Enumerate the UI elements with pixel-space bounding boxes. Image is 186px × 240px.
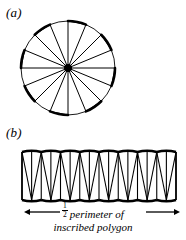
sector-side: [138, 152, 148, 200]
one-half-fraction: 1 2: [62, 202, 68, 219]
sector-side: [70, 152, 80, 200]
polygon-chord: [25, 86, 35, 101]
sector-side: [166, 152, 176, 200]
circle-arc-thin: [50, 21, 68, 25]
fraction-numerator: 1: [62, 202, 68, 210]
circle-arc-thin: [21, 68, 25, 86]
figure-root: (a) (b) 1 2 perimeter of inscribed polyg…: [0, 0, 186, 240]
sector-side: [22, 152, 32, 200]
circle-arc-thin: [86, 25, 101, 35]
sector-spoke: [68, 68, 101, 101]
sector-side: [32, 152, 42, 200]
circle-arc-thin: [25, 35, 35, 50]
caption-line-1: 1 2 perimeter of: [0, 203, 186, 221]
sector-side: [99, 152, 109, 200]
polygon-chord: [86, 101, 101, 111]
sector-spoke: [68, 35, 101, 68]
fraction-denominator: 2: [62, 210, 68, 219]
strip-top-edge: [22, 151, 176, 152]
polygon-chord: [35, 25, 50, 35]
polygon-chord: [101, 35, 111, 50]
sector-spoke: [35, 68, 68, 101]
sector-side: [61, 152, 71, 200]
circle-arc-thin: [101, 86, 111, 101]
caption-line-2: inscribed polygon: [0, 221, 186, 235]
sector-side: [41, 152, 51, 200]
sector-side: [157, 152, 167, 200]
sector-strip: [22, 151, 176, 202]
circle-arc-thin: [68, 111, 86, 115]
strip-bottom-edge: [22, 200, 176, 201]
sector-side: [51, 152, 61, 200]
caption-line-1-text: perimeter of: [70, 208, 124, 220]
circle-arc-thin: [35, 101, 50, 111]
circle-center-dot: [64, 64, 72, 72]
sector-side: [118, 152, 128, 200]
sector-spoke: [35, 35, 68, 68]
sector-side: [147, 152, 157, 200]
sector-side: [80, 152, 90, 200]
figure-caption: 1 2 perimeter of inscribed polygon: [0, 203, 186, 235]
sector-side: [89, 152, 99, 200]
sector-side: [128, 152, 138, 200]
circle-arc-thin: [111, 50, 115, 68]
sector-side: [109, 152, 119, 200]
